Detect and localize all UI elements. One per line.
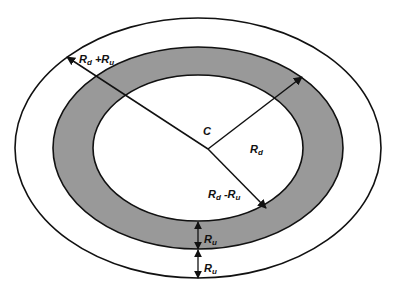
concentric-ellipse-diagram: C Rd +Ru Rd Rd -Ru Ru Ru bbox=[0, 0, 393, 295]
outer-radius-label: Rd +Ru bbox=[79, 53, 114, 67]
inner-ellipse bbox=[93, 75, 303, 221]
center-label: C bbox=[203, 125, 212, 137]
